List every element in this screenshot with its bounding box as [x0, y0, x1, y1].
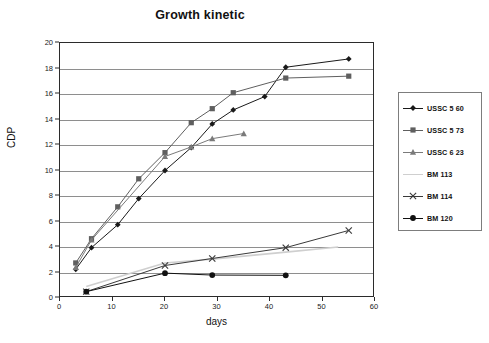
x-tick-label: 20 — [160, 302, 168, 311]
x-tick-label: 0 — [57, 302, 61, 311]
legend-swatch-cross-icon — [403, 190, 423, 202]
legend-item-ussc-5-73[interactable]: USSC 5 73 — [403, 123, 464, 137]
legend-item-bm-120[interactable]: BM 120 — [403, 211, 453, 225]
legend-swatch-triangle-icon — [403, 146, 423, 158]
x-tick-label: 30 — [212, 302, 220, 311]
data-point — [189, 120, 194, 125]
x-tick-label: 60 — [370, 302, 378, 311]
legend-marker-icon — [407, 212, 419, 224]
data-point — [241, 130, 247, 136]
data-point — [230, 107, 236, 113]
legend-label: USSC 5 60 — [427, 104, 464, 113]
legend-label: USSC 6 23 — [427, 148, 464, 157]
legend-swatch-square-icon — [403, 124, 423, 136]
legend-label: BM 113 — [427, 170, 452, 179]
legend-marker-icon — [407, 146, 419, 158]
legend-label: USSC 5 73 — [427, 126, 464, 135]
legend-item-ussc-6-23[interactable]: USSC 6 23 — [403, 145, 464, 159]
data-point — [83, 289, 89, 295]
data-point — [136, 176, 141, 181]
chart-root: Growth kinetic 02468101214161820 0102030… — [0, 0, 489, 343]
series-ussc-5-60 — [73, 56, 352, 272]
legend-label: BM 120 — [427, 214, 453, 223]
series-ussc-5-73 — [73, 74, 351, 266]
legend-line — [403, 174, 423, 175]
x-tick-label: 50 — [317, 302, 325, 311]
data-point — [346, 227, 352, 233]
data-point — [346, 74, 351, 79]
series-line — [76, 76, 349, 263]
x-axis-label: days — [59, 316, 374, 327]
legend-item-bm-114[interactable]: BM 114 — [403, 189, 452, 203]
data-point — [210, 106, 215, 111]
y-axis-label: CDP — [6, 127, 17, 148]
legend-marker-icon — [407, 190, 419, 202]
legend-marker-icon — [407, 124, 419, 136]
data-point — [283, 272, 289, 278]
x-tick-label: 10 — [107, 302, 115, 311]
legend-item-ussc-5-60[interactable]: USSC 5 60 — [403, 101, 464, 115]
series-line — [76, 134, 244, 268]
data-point — [162, 270, 168, 276]
data-layer — [60, 43, 375, 298]
series-bm-113 — [86, 247, 338, 287]
legend-item-bm-113[interactable]: BM 113 — [403, 167, 452, 181]
series-line — [76, 59, 349, 269]
series-line — [86, 273, 286, 291]
legend-swatch-circle-icon — [403, 212, 423, 224]
legend-label: BM 114 — [427, 192, 452, 201]
plot-area — [59, 42, 374, 297]
data-point — [231, 90, 236, 95]
x-tick-label: 40 — [265, 302, 273, 311]
legend-swatch-diamond-icon — [403, 102, 423, 114]
data-point — [283, 75, 288, 80]
legend: USSC 5 60USSC 5 73USSC 6 23BM 113BM 114B… — [398, 92, 482, 231]
series-bm-114 — [83, 227, 352, 294]
data-point — [346, 56, 352, 62]
legend-marker-icon — [407, 102, 419, 114]
series-ussc-6-23 — [73, 130, 247, 270]
series-line — [86, 247, 338, 287]
data-point — [209, 272, 215, 278]
legend-swatch-none-icon — [403, 168, 423, 180]
